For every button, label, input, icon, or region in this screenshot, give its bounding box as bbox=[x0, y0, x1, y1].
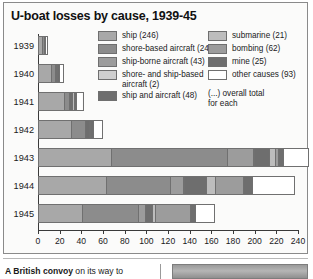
x-axis-tick bbox=[38, 230, 39, 234]
bar-segment bbox=[60, 65, 63, 82]
y-axis-label: 1943 bbox=[0, 153, 34, 163]
bar-segment bbox=[284, 149, 308, 166]
bar-segment bbox=[185, 177, 206, 194]
caption-text: A British convoy on its way to bbox=[5, 266, 155, 276]
legend-item: ship (246) bbox=[98, 31, 216, 43]
convoy-photo bbox=[172, 264, 308, 279]
x-axis-tick-label: 40 bbox=[77, 236, 87, 246]
legend-left-column: ship (246)shore-based aircraft (245)ship… bbox=[98, 31, 216, 104]
legend-item: mine (25) bbox=[208, 57, 296, 69]
bar-segment bbox=[244, 177, 253, 194]
x-axis-tick-label: 120 bbox=[161, 236, 175, 246]
legend-note: (...) overall total for each bbox=[208, 89, 264, 108]
legend-item: bombing (62) bbox=[208, 44, 296, 56]
caption-vertical-rule bbox=[160, 264, 161, 279]
legend-swatch-icon bbox=[208, 31, 227, 41]
x-axis-tick-label: 240 bbox=[291, 236, 305, 246]
legend-label: ship (246) bbox=[122, 31, 158, 41]
legend-label: ship and aircraft (48) bbox=[122, 91, 197, 101]
x-axis-tick-label: 0 bbox=[36, 236, 41, 246]
x-axis-tick bbox=[60, 230, 61, 234]
bar-segment bbox=[228, 149, 254, 166]
bar-segment bbox=[77, 93, 82, 110]
y-axis-label: 1942 bbox=[0, 125, 34, 135]
bar-segment bbox=[39, 205, 83, 222]
y-axis-label: 1939 bbox=[0, 41, 34, 51]
y-axis-label: 1940 bbox=[0, 69, 34, 79]
bar-segment bbox=[94, 121, 102, 138]
y-axis-label: 1944 bbox=[0, 181, 34, 191]
bar-segment bbox=[216, 177, 244, 194]
bar-segment bbox=[112, 149, 228, 166]
legend-label: submarine (21) bbox=[232, 31, 287, 41]
legend-item: other causes (93) bbox=[208, 70, 296, 82]
bar-segment bbox=[207, 177, 217, 194]
stacked-bar bbox=[38, 148, 309, 167]
legend-label: shore- and ship-based aircraft (2) bbox=[122, 70, 203, 90]
x-axis-tick-label: 140 bbox=[182, 236, 196, 246]
x-axis-tick bbox=[276, 230, 277, 234]
bar-segment bbox=[83, 205, 139, 222]
bar-segment bbox=[156, 205, 191, 222]
x-axis-tick bbox=[298, 230, 299, 234]
x-axis-tick bbox=[190, 230, 191, 234]
x-axis-tick bbox=[211, 230, 212, 234]
x-axis-tick bbox=[233, 230, 234, 234]
stacked-bar bbox=[38, 120, 103, 139]
chart-title: U-boat losses by cause, 1939-45 bbox=[11, 9, 197, 23]
bar-segment bbox=[39, 177, 107, 194]
stacked-bar bbox=[38, 176, 295, 195]
legend-item: shore-based aircraft (245) bbox=[98, 44, 216, 56]
legend-swatch-icon bbox=[98, 57, 117, 67]
bar-segment bbox=[39, 149, 112, 166]
stacked-bar bbox=[38, 64, 64, 83]
caption-rest: on its way to bbox=[73, 266, 123, 276]
y-axis-label: 1945 bbox=[0, 209, 34, 219]
legend-swatch-icon bbox=[208, 44, 227, 54]
legend-item: ship and aircraft (48) bbox=[98, 91, 216, 103]
x-axis-tick bbox=[125, 230, 126, 234]
bar-segment bbox=[39, 93, 65, 110]
x-axis-tick-label: 180 bbox=[226, 236, 240, 246]
x-axis-tick-label: 160 bbox=[204, 236, 218, 246]
bar-segment bbox=[255, 149, 270, 166]
bar-segment bbox=[139, 205, 146, 222]
bar-segment bbox=[72, 121, 87, 138]
x-axis-tick-label: 80 bbox=[120, 236, 130, 246]
x-axis-tick-label: 200 bbox=[247, 236, 261, 246]
legend-swatch-icon bbox=[208, 70, 227, 80]
legend-label: bombing (62) bbox=[232, 44, 280, 54]
bar-segment bbox=[46, 37, 47, 54]
stacked-bar bbox=[38, 36, 48, 55]
x-axis-tick-label: 20 bbox=[55, 236, 65, 246]
x-axis-tick bbox=[146, 230, 147, 234]
x-axis-tick bbox=[81, 230, 82, 234]
legend-item: submarine (21) bbox=[208, 31, 296, 43]
chart-figure: U-boat losses by cause, 1939-45 ship (24… bbox=[0, 0, 313, 279]
legend-item: ship-borne aircraft (43) bbox=[98, 57, 216, 69]
legend-swatch-icon bbox=[98, 31, 117, 41]
x-axis-tick bbox=[255, 230, 256, 234]
caption-divider bbox=[3, 258, 308, 259]
x-axis-tick-label: 220 bbox=[269, 236, 283, 246]
legend-label: other causes (93) bbox=[232, 70, 296, 80]
caption-lead: A British convoy bbox=[5, 266, 73, 276]
stacked-bar bbox=[38, 92, 84, 111]
legend-swatch-icon bbox=[208, 57, 227, 67]
legend-label: ship-borne aircraft (43) bbox=[122, 57, 205, 67]
x-axis-tick bbox=[103, 230, 104, 234]
legend-label: mine (25) bbox=[232, 57, 267, 67]
bar-segment bbox=[39, 65, 52, 82]
bar-segment bbox=[39, 121, 72, 138]
legend-swatch-icon bbox=[98, 91, 117, 101]
legend-swatch-icon bbox=[98, 44, 117, 54]
x-axis-tick-label: 100 bbox=[139, 236, 153, 246]
bar-segment bbox=[196, 205, 213, 222]
bar-segment bbox=[171, 177, 184, 194]
bar-segment bbox=[107, 177, 171, 194]
legend-right-column: submarine (21)bombing (62)mine (25)other… bbox=[208, 31, 296, 83]
x-axis-tick-label: 60 bbox=[98, 236, 108, 246]
legend-label: shore-based aircraft (245) bbox=[122, 44, 216, 54]
bar-segment bbox=[253, 177, 294, 194]
x-axis-tick bbox=[168, 230, 169, 234]
